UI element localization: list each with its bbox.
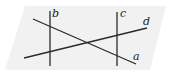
label-c: c — [120, 7, 126, 20]
plane — [5, 6, 166, 70]
label-d: d — [143, 15, 150, 28]
label-a: a — [133, 50, 140, 63]
geometry-diagram: b c d a — [0, 0, 171, 76]
diagram-svg: b c d a — [0, 0, 171, 76]
label-b: b — [52, 7, 59, 20]
